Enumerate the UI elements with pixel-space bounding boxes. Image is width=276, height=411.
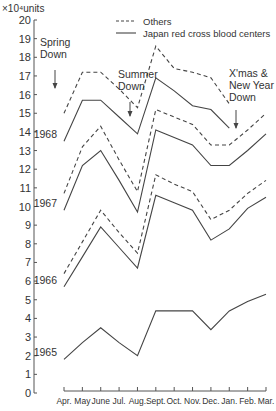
y-tick-label: 13	[19, 145, 31, 157]
y-tick-label: 0	[25, 387, 31, 399]
y-tick-label: 17	[19, 70, 31, 82]
y-tick-label: 4	[25, 312, 31, 324]
legend-label: Japan red cross blood centers	[143, 28, 271, 39]
y-tick-label: 5	[25, 294, 31, 306]
annotation-label: SpringDown	[40, 36, 71, 60]
y-tick-label: 7	[25, 256, 31, 268]
y-tick-label: 8	[25, 238, 31, 250]
year-label: 1965	[34, 346, 58, 358]
y-tick-label: 15	[19, 107, 31, 119]
y-tick-label: 9	[25, 219, 31, 231]
y-tick-label: 1	[25, 368, 31, 380]
y-tick-label: 14	[19, 126, 31, 138]
y-tick-label: 16	[19, 89, 31, 101]
x-tick-label: Oct.	[166, 396, 182, 406]
arrowhead-icon	[234, 123, 239, 129]
red-cross-line	[64, 294, 266, 359]
x-tick-label: Nov.	[184, 396, 201, 406]
year-label: 1966	[34, 274, 58, 286]
year-labels: 1968196719661965	[34, 128, 58, 358]
x-tick-label: Aug.	[129, 396, 147, 406]
y-tick-label: 6	[25, 275, 31, 287]
year-label: 1967	[34, 197, 58, 209]
legend-label: Others	[143, 16, 172, 27]
y-tick-label: 18	[19, 51, 31, 63]
red-cross-line	[64, 195, 266, 286]
y-tick-label: 19	[19, 33, 31, 45]
y-tick-label: 3	[25, 331, 31, 343]
x-tick-label: June	[92, 396, 111, 406]
y-tick-label: 10	[19, 201, 31, 213]
arrowhead-icon	[128, 111, 133, 117]
x-tick-label: May	[74, 396, 91, 406]
year-label: 1968	[34, 128, 58, 140]
red-cross-line	[64, 130, 266, 212]
others-line	[64, 175, 266, 274]
y-tick-label: 12	[19, 163, 31, 175]
y-tick-label: 11	[20, 182, 31, 194]
y-axis-label: ×10⁴units	[2, 3, 44, 14]
x-tick-label: Mar.	[258, 396, 275, 406]
x-tick-label: Feb.	[239, 396, 256, 406]
line-chart: ×10⁴units 012345678910111213141516171819…	[0, 0, 276, 411]
legend: OthersJapan red cross blood centers	[116, 16, 271, 39]
annotation-label: X'mas &New YearDown	[229, 67, 274, 103]
y-tick-label: 20	[19, 14, 31, 26]
y-tick-label: 2	[25, 350, 31, 362]
x-tick-label: Apr.	[56, 396, 71, 406]
x-tick-label: Sept.	[146, 396, 166, 406]
x-tick-label: Dec.	[202, 396, 219, 406]
x-tick-label: Jan.	[221, 396, 237, 406]
x-tick-label: Jul.	[112, 396, 125, 406]
red-cross-line	[64, 78, 229, 141]
arrowhead-icon	[53, 83, 58, 89]
